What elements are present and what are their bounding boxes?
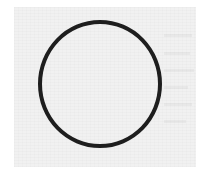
bleed-through-line [164, 69, 194, 72]
bleed-through-line [164, 52, 190, 55]
bleed-through-line [164, 120, 186, 123]
bleed-through-line [164, 34, 192, 37]
circle-outline [38, 20, 162, 148]
bleed-through-line [164, 103, 192, 106]
bleed-through-line [164, 86, 188, 89]
